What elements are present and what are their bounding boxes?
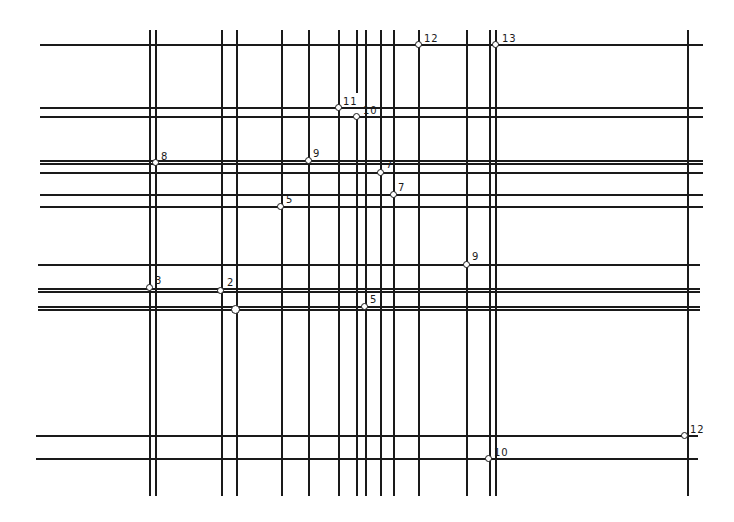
horizontal-line [38,264,700,266]
node-circle-icon [231,305,240,314]
node-circle-icon [353,113,360,120]
vertical-line [356,30,358,93]
node-label: 2 [227,278,234,288]
node-circle-icon [377,169,384,176]
node-circle-icon [361,303,368,310]
vertical-line [338,30,340,496]
node-label: 7 [398,183,405,193]
horizontal-line [38,288,700,290]
horizontal-line [38,306,700,308]
node-circle-icon [463,261,470,268]
vertical-line [365,30,367,496]
node-label: 10 [363,106,378,116]
horizontal-line [38,309,700,311]
vertical-line [393,30,395,496]
horizontal-line [36,458,698,460]
vertical-line [155,30,157,496]
node-circle-icon [217,287,224,294]
node-label: 12 [424,34,439,44]
vertical-line [380,30,382,496]
vertical-line [281,30,283,496]
node-circle-icon [415,41,422,48]
horizontal-line [40,194,703,196]
horizontal-line [36,435,698,437]
node-circle-icon [492,41,499,48]
horizontal-line [40,163,703,165]
horizontal-line [40,172,703,174]
node-label: 3 [155,276,162,286]
node-label: 11 [343,97,358,107]
vertical-line [687,30,689,496]
node-circle-icon [305,157,312,164]
node-circle-icon [335,104,342,111]
vertical-line [149,30,151,496]
node-label: 7 [386,160,393,170]
vertical-line [221,30,223,496]
horizontal-line [40,160,703,162]
node-label: 10 [494,448,509,458]
node-circle-icon [390,191,397,198]
node-label: 12 [690,425,705,435]
node-label: 9 [472,252,479,262]
node-label: 5 [370,295,377,305]
horizontal-line [40,44,703,46]
horizontal-line [38,291,700,293]
horizontal-line [40,116,703,118]
node-label: 9 [313,149,320,159]
horizontal-line [40,206,703,208]
vertical-line [489,30,491,496]
node-circle-icon [681,432,688,439]
vertical-line [308,30,310,496]
node-circle-icon [152,159,159,166]
grid-network-diagram: 121311108977593251210 [0,0,734,522]
vertical-line [418,30,420,496]
node-circle-icon [277,203,284,210]
node-circle-icon [485,455,492,462]
node-circle-icon [146,284,153,291]
node-label: 5 [286,195,293,205]
vertical-line [495,30,497,496]
node-label: 8 [161,152,168,162]
node-label: 13 [502,34,517,44]
vertical-line [236,30,238,496]
